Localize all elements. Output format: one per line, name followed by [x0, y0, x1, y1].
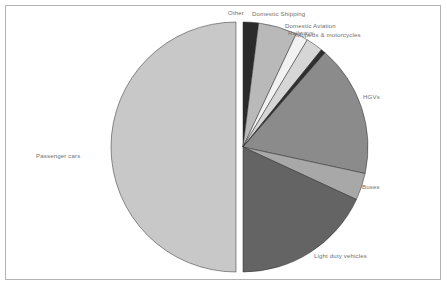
pie-label-domestic-shipping: Domestic Shipping	[252, 10, 305, 17]
pie-chart-plot-area	[0, 0, 447, 286]
pie-label-other: Other	[228, 9, 244, 16]
pie-label-hgvs: HGVs	[363, 93, 380, 100]
pie-label-light-duty-vehicles: Light duty vehicles	[314, 252, 367, 259]
pie-label-mopeds-motorcycles: Mopeds & motorcycles	[296, 31, 361, 38]
pie-label-passenger-cars: Passenger cars	[36, 152, 80, 159]
pie-label-domestic-aviation: Domestic Aviation	[285, 22, 336, 29]
pie-slice-group	[111, 22, 368, 272]
pie-label-buses: Buses	[362, 183, 380, 190]
pie-chart-svg	[0, 0, 447, 286]
chart-figure: Other Domestic Shipping Domestic Aviatio…	[0, 0, 447, 286]
pie-slice-passenger-cars	[111, 22, 236, 272]
